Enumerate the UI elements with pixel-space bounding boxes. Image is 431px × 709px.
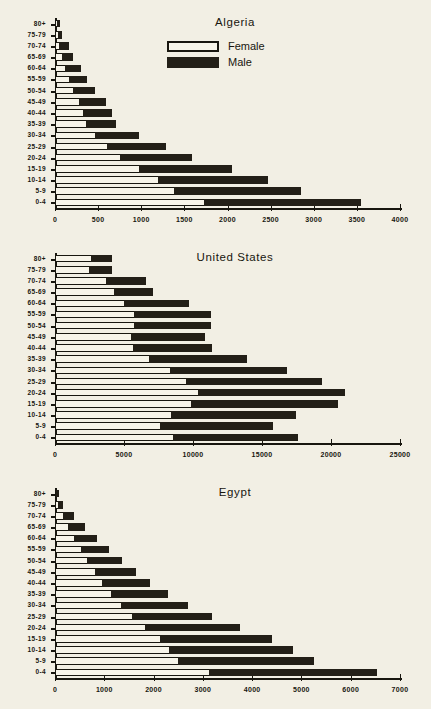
bar-segment-male xyxy=(56,490,58,498)
bar-segment-male xyxy=(86,120,116,128)
bar-row xyxy=(0,120,431,128)
bar-segment-female xyxy=(55,422,161,430)
bar-segment-male xyxy=(160,635,272,643)
x-tick-label: 25000 xyxy=(376,451,424,458)
bar-segment-female xyxy=(55,523,69,531)
bar-segment-male xyxy=(89,266,112,274)
bar-row xyxy=(0,535,431,543)
x-tick-label: 7000 xyxy=(376,686,424,693)
legend-item-female[interactable]: Female xyxy=(167,40,265,52)
x-tick-label: 0 xyxy=(31,686,79,693)
bar-segment-male xyxy=(120,154,192,162)
bar-segment-female xyxy=(55,98,80,106)
bar-segment-female xyxy=(55,187,175,195)
bar-segment-male xyxy=(121,602,188,610)
bar-segment-female xyxy=(55,389,199,397)
bar-row xyxy=(0,355,431,363)
bar-row xyxy=(0,76,431,84)
bar-segment-male xyxy=(198,389,346,397)
bar-row xyxy=(0,657,431,665)
plot-area: 0100020003000400050006000700080+75-7970-… xyxy=(0,484,431,708)
bar-segment-female xyxy=(55,355,150,363)
bar-segment-male xyxy=(169,646,292,654)
bar-segment-female xyxy=(55,613,133,621)
bar-row xyxy=(0,87,431,95)
bar-segment-female xyxy=(55,367,171,375)
x-tick-label: 4000 xyxy=(376,216,424,223)
bar-row xyxy=(0,546,431,554)
bar-row xyxy=(0,322,431,330)
bar-segment-female xyxy=(55,266,90,274)
bar-row xyxy=(0,389,431,397)
bar-segment-male xyxy=(63,512,73,520)
bar-segment-female xyxy=(55,176,159,184)
bar-row xyxy=(0,411,431,419)
bar-row xyxy=(0,187,431,195)
chart-united-states: United States050001000015000200002500080… xyxy=(0,249,431,479)
legend-label: Male xyxy=(228,56,252,68)
bar-row xyxy=(0,579,431,587)
bar-segment-male xyxy=(134,311,211,319)
x-tick-label: 3000 xyxy=(179,686,227,693)
bar-segment-male xyxy=(133,344,212,352)
bar-row xyxy=(0,20,431,28)
bar-segment-male xyxy=(158,176,268,184)
bar-segment-male xyxy=(145,624,240,632)
x-tick-label: 500 xyxy=(74,216,122,223)
bar-segment-male xyxy=(139,165,232,173)
bar-segment-male xyxy=(124,300,189,308)
bar-row xyxy=(0,568,431,576)
bar-row xyxy=(0,255,431,263)
legend-label: Female xyxy=(228,40,265,52)
x-tick-label: 1000 xyxy=(117,216,165,223)
bar-segment-male xyxy=(134,322,211,330)
bar-segment-male xyxy=(186,378,322,386)
bar-row xyxy=(0,109,431,117)
bar-row xyxy=(0,143,431,151)
x-tick-label: 6000 xyxy=(327,686,375,693)
x-axis xyxy=(55,443,402,445)
bar-segment-female xyxy=(55,333,132,341)
legend-swatch-male-icon xyxy=(167,57,219,68)
bar-segment-female xyxy=(55,87,74,95)
legend-item-male[interactable]: Male xyxy=(167,56,252,68)
bar-row xyxy=(0,266,431,274)
bar-segment-male xyxy=(171,411,297,419)
bar-segment-female xyxy=(55,378,187,386)
bar-segment-female xyxy=(55,120,87,128)
bar-segment-female xyxy=(55,322,135,330)
bar-segment-male xyxy=(62,53,73,61)
bar-segment-male xyxy=(59,42,68,50)
bar-row xyxy=(0,669,431,677)
bar-segment-female xyxy=(55,635,161,643)
bar-segment-male xyxy=(204,199,362,207)
chart-egypt: Egypt0100020003000400050006000700080+75-… xyxy=(0,484,431,709)
bar-row xyxy=(0,132,431,140)
bar-row xyxy=(0,523,431,531)
bar-row xyxy=(0,288,431,296)
x-tick-label: 5000 xyxy=(100,451,148,458)
x-tick-label: 2500 xyxy=(247,216,295,223)
bar-segment-male xyxy=(106,277,147,285)
bar-segment-male xyxy=(87,557,122,565)
bar-row xyxy=(0,98,431,106)
x-tick-label: 10000 xyxy=(169,451,217,458)
x-tick-label: 1000 xyxy=(80,686,128,693)
legend-swatch-female-icon xyxy=(167,41,219,52)
x-tick-label: 20000 xyxy=(307,451,355,458)
x-tick-label: 0 xyxy=(31,451,79,458)
bar-segment-male xyxy=(178,657,315,665)
bar-row xyxy=(0,400,431,408)
bar-row xyxy=(0,344,431,352)
bar-row xyxy=(0,624,431,632)
bar-segment-male xyxy=(131,333,206,341)
bar-row xyxy=(0,367,431,375)
plot-area: 050001000015000200002500080+75-7970-7465… xyxy=(0,249,431,473)
bar-segment-male xyxy=(209,669,377,677)
bar-row xyxy=(0,154,431,162)
bar-segment-male xyxy=(160,422,273,430)
bar-segment-male xyxy=(91,255,112,263)
x-tick-label: 3000 xyxy=(290,216,338,223)
bar-row xyxy=(0,422,431,430)
bar-row xyxy=(0,501,431,509)
